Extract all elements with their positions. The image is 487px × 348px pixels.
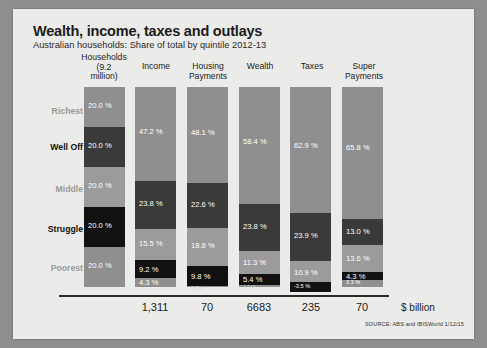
total-housing-payments: 70 [177, 301, 237, 313]
bar-segment-label: 0.7% [191, 285, 202, 291]
bar-segment: 13.6 % [342, 245, 383, 272]
bar-segment: 23.8 % [135, 181, 176, 229]
bar-segment-label: 23.9 % [294, 231, 318, 240]
bar-segment-label: 22.6 % [191, 200, 215, 209]
chart-card: Wealth, income, taxes and outlays Austra… [13, 9, 474, 339]
bar-segment: 20.0 % [84, 247, 125, 287]
bar-segment-label: 10.9 % [294, 268, 318, 277]
bar-segment-label: 9.8 % [191, 272, 210, 281]
bar-segment-label: 5.4 % [243, 275, 262, 284]
bar-segment: 23.9 % [290, 213, 331, 261]
row-label-middle: Middle [27, 184, 83, 194]
chart-subtitle: Australian households: Share of total by… [33, 40, 266, 50]
bar-segment-label: 13.6 % [346, 254, 370, 263]
chart-title: Wealth, income, taxes and outlays [33, 23, 262, 39]
unit-label: $ billion [401, 302, 435, 313]
total-wealth: 6683 [229, 301, 289, 313]
bar-segment: 20.0 % [84, 167, 125, 207]
column-header-housing-payments: Housing Payments [177, 62, 239, 81]
bar-segment-label: 9.2 % [139, 265, 158, 274]
row-label-richest: Richest [27, 106, 83, 116]
column-header-line2: Payments [333, 72, 395, 82]
bar-segment: 9.8 % [187, 266, 228, 286]
total-super-payments: 70 [332, 301, 392, 313]
bar-segment: 20.0 % [84, 87, 125, 127]
bar-segment: 48.1 % [187, 87, 228, 183]
bar-segment: 3.3 % [342, 280, 383, 287]
bar-taxes: 62.9 % 23.9 % 10.9 % -3.5 % [290, 87, 331, 287]
bar-segment: 65.8 % [342, 87, 383, 219]
bar-segment-label: 15.5 % [139, 239, 163, 248]
bar-segment-label: 20.0 % [88, 141, 112, 150]
bar-segment-label: 20.0 % [88, 261, 112, 270]
total-income: 1,311 [125, 301, 185, 313]
row-label-poorest: Poorest [27, 263, 83, 273]
bar-segment-label: 1.1 % [243, 284, 256, 290]
baseline-axis [59, 295, 389, 297]
bar-segment: 0.7% [187, 286, 228, 287]
bar-segment-label: 48.1 % [191, 128, 215, 137]
bar-segment: 20.0 % [84, 207, 125, 247]
bar-segment-label: 23.8 % [139, 199, 163, 208]
bar-segment: 15.5 % [135, 229, 176, 260]
bar-wealth: 58.4 % 23.8 % 11.3 % 5.4 % 1.1 % [239, 87, 280, 287]
bar-segment: 20.0 % [84, 127, 125, 167]
bar-segment: 47.2 % [135, 87, 176, 181]
bar-income: 47.2 % 23.8 % 15.5 % 9.2 % 4.3 % [135, 87, 176, 287]
row-label-struggle: Struggle [27, 224, 83, 234]
bar-segment-label: 65.8 % [346, 143, 370, 152]
bar-segment: 22.6 % [187, 183, 228, 228]
bar-segment: 62.9 % [290, 87, 331, 213]
column-header-line3: million) [75, 72, 133, 82]
column-header-wealth: Wealth [231, 62, 289, 72]
chart-canvas: Wealth, income, taxes and outlays Austra… [13, 9, 474, 339]
column-header-households: Households (9.2 million) [75, 53, 133, 82]
bar-segment: 18.8 % [187, 228, 228, 266]
bar-segment: 9.2 % [135, 260, 176, 278]
bar-segment-label: 18.8 % [191, 241, 215, 250]
bar-segment-label: 23.8 % [243, 222, 267, 231]
bar-segment: -3.5 % [290, 282, 331, 292]
bar-segment: 13.0 % [342, 219, 383, 245]
bar-segment: 11.3 % [239, 251, 280, 274]
bar-segment: 10.9 % [290, 261, 331, 283]
bar-segment-label: -3.5 % [294, 283, 310, 289]
bar-housing-payments: 48.1 % 22.6 % 18.8 % 9.8 % 0.7% [187, 87, 228, 287]
bar-segment: 4.3 % [135, 278, 176, 287]
column-header-line1: Wealth [231, 62, 289, 72]
bar-segment: 23.8 % [239, 204, 280, 252]
bar-segment-label: 47.2 % [139, 127, 163, 136]
bar-segment-label: 3.3 % [346, 279, 360, 285]
row-label-well-off: Well Off [27, 142, 83, 152]
column-header-line2: Payments [177, 72, 239, 82]
bar-super-payments: 65.8 % 13.0 % 13.6 % 4.3 % 3.3 % [342, 87, 383, 287]
bar-segment-label: 4.3 % [139, 278, 158, 287]
bar-segment-label: 58.4 % [243, 137, 267, 146]
column-header-super-payments: Super Payments [333, 62, 395, 81]
bar-segment-label: 20.0 % [88, 101, 112, 110]
bar-segment-label: 20.0 % [88, 181, 112, 190]
bar-segment-label: 62.9 % [294, 141, 318, 150]
bar-segment-label: 13.0 % [346, 227, 370, 236]
bar-segment-label: 11.3 % [243, 258, 266, 267]
bar-segment: 1.1 % [239, 285, 280, 287]
bar-households: 20.0 % 20.0 % 20.0 % 20.0 % 20.0 % [84, 87, 125, 287]
bar-segment-label: 20.0 % [88, 221, 112, 230]
source-note: SOURCE: ABS and IBISWorld 1/12/15 [365, 321, 464, 327]
bar-segment: 58.4 % [239, 87, 280, 204]
